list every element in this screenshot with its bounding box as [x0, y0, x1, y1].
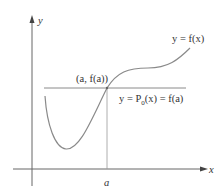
- constant-line-label-prefix: y = P: [119, 93, 141, 104]
- constant-line-label-suffix: (x) = f(a): [145, 93, 184, 105]
- x-axis: [13, 167, 208, 172]
- tangent-point-marker: [106, 87, 108, 89]
- taylor-p0-diagram: y x (a, f(a)) a y = f(x) y = P0(x) = f(a…: [0, 0, 216, 195]
- a-tick-label: a: [104, 177, 109, 188]
- x-axis-arrow-icon: [200, 167, 208, 172]
- point-label: (a, f(a)): [76, 73, 109, 85]
- y-axis-arrow-icon: [30, 15, 35, 23]
- x-axis-label: x: [208, 164, 214, 175]
- curve-label: y = f(x): [172, 33, 205, 45]
- constant-line-label: y = P0(x) = f(a): [119, 93, 184, 107]
- y-axis: [30, 15, 35, 186]
- y-axis-label: y: [37, 15, 43, 26]
